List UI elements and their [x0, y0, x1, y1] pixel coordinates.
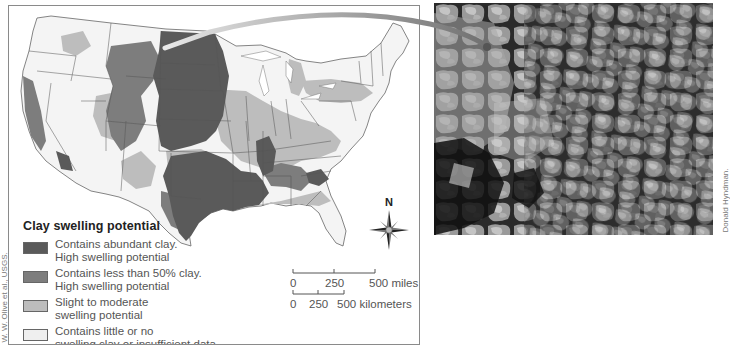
compass-star-icon — [363, 196, 415, 250]
legend-swatch-abundant-clay — [23, 242, 48, 254]
legend-label: Contains little or no swelling clay or i… — [55, 325, 216, 345]
cracked-clay-photo — [434, 3, 713, 235]
scale-miles-500: 500 miles — [369, 277, 418, 289]
legend-item-little-none: Contains little or no swelling clay or i… — [23, 325, 283, 345]
compass-rose: N — [363, 196, 415, 250]
legend-item-less-than-50-clay: Contains less than 50% clay. High swelli… — [23, 267, 283, 295]
legend-item-abundant-clay: Contains abundant clay. High swelling po… — [23, 238, 283, 266]
legend-label: Contains less than 50% clay. High swelli… — [55, 267, 202, 293]
scale-km-250: 250 — [309, 298, 328, 310]
legend-label: Contains abundant clay. High swelling po… — [55, 238, 178, 264]
scale-km-500: 500 kilometers — [337, 298, 412, 310]
photo-credit: Donald Hyndman. — [721, 166, 730, 236]
map-credit: W. W. Olive et al., USGS. — [0, 263, 9, 343]
cracked-clay-texture — [434, 3, 713, 235]
legend-swatch-less-than-50-clay — [23, 271, 48, 283]
legend-label: Slight to moderate swelling potential — [55, 296, 148, 322]
scale-bar: 0 250 500 miles 0 250 500 kilometers — [284, 266, 424, 314]
legend: Clay swelling potential Contains abundan… — [23, 219, 283, 345]
legend-swatch-little-none — [23, 329, 48, 341]
legend-item-slight-moderate: Slight to moderate swelling potential — [23, 296, 283, 324]
scale-miles-250: 250 — [325, 277, 344, 289]
scale-km-0: 0 — [290, 298, 296, 310]
legend-title: Clay swelling potential — [23, 219, 283, 233]
scale-miles-0: 0 — [290, 277, 296, 289]
legend-swatch-slight-moderate — [23, 300, 48, 312]
